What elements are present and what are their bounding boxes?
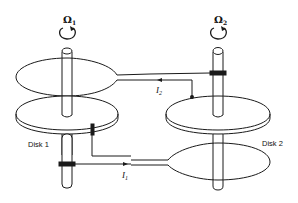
wire-coil1-to-axle2 [150, 73, 210, 74]
dynamo-diagram: Ω1 Ω2 Disk 1 Disk 2 I2 I1 [0, 0, 298, 203]
brush-axle-1 [59, 162, 75, 166]
brush-rim-1 [91, 124, 94, 135]
rotation-arrow-1 [60, 26, 76, 39]
disk1-label: Disk 1 [28, 140, 49, 149]
wire-rim1-to-coil2 [92, 135, 131, 156]
omega1-label: Ω1 [63, 14, 76, 26]
current1-label: I1 [121, 170, 128, 181]
axle-2-lower [213, 134, 223, 190]
disk-1 [16, 96, 118, 134]
disk2-label: Disk 2 [262, 139, 283, 148]
coil-2 [131, 143, 270, 180]
arrow-i1 [123, 162, 128, 166]
arrow-i2 [157, 78, 162, 82]
axle-1-lower [62, 134, 72, 188]
rotation-arrow-2 [211, 26, 227, 39]
brush-axle-2 [210, 71, 226, 75]
coil-1 [16, 58, 150, 96]
omega2-label: Ω2 [214, 14, 227, 26]
disk-2 [166, 96, 270, 134]
current2-label: I2 [155, 85, 162, 96]
